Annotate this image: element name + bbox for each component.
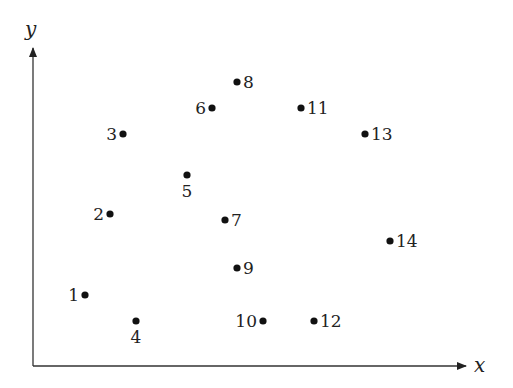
scatter-plot: y x 1234567891011121314: [0, 0, 513, 388]
data-point: 4: [131, 317, 142, 347]
data-point: 10: [235, 311, 266, 331]
data-point: 2: [93, 204, 113, 224]
point-label: 14: [396, 231, 418, 251]
data-points: 1234567891011121314: [68, 72, 417, 347]
point-marker: [386, 237, 393, 244]
point-label: 3: [106, 124, 117, 144]
point-marker: [119, 130, 126, 137]
x-axis-label: x: [474, 353, 485, 377]
point-marker: [81, 291, 88, 298]
point-marker: [310, 317, 317, 324]
point-label: 6: [195, 98, 206, 118]
point-marker: [132, 317, 139, 324]
data-point: 14: [386, 231, 417, 251]
point-label: 1: [68, 285, 79, 305]
point-marker: [297, 104, 304, 111]
point-label: 10: [235, 311, 257, 331]
point-label: 7: [231, 210, 242, 230]
point-marker: [259, 317, 266, 324]
point-marker: [361, 130, 368, 137]
data-point: 1: [68, 285, 88, 305]
data-point: 5: [182, 171, 193, 201]
point-label: 11: [307, 98, 329, 118]
point-label: 2: [93, 204, 104, 224]
point-label: 9: [243, 258, 254, 278]
data-point: 12: [310, 311, 341, 331]
data-point: 9: [233, 258, 253, 278]
point-label: 13: [371, 124, 393, 144]
point-label: 12: [320, 311, 342, 331]
point-label: 4: [131, 327, 142, 347]
y-axis-label: y: [24, 17, 37, 41]
point-label: 5: [182, 181, 193, 201]
data-point: 3: [106, 124, 126, 144]
point-marker: [233, 78, 240, 85]
data-point: 11: [297, 98, 328, 118]
point-marker: [106, 210, 113, 217]
point-marker: [233, 264, 240, 271]
data-point: 13: [361, 124, 392, 144]
data-point: 8: [233, 72, 253, 92]
data-point: 7: [221, 210, 241, 230]
point-marker: [183, 171, 190, 178]
point-marker: [221, 216, 228, 223]
data-point: 6: [195, 98, 215, 118]
point-label: 8: [243, 72, 254, 92]
point-marker: [208, 104, 215, 111]
